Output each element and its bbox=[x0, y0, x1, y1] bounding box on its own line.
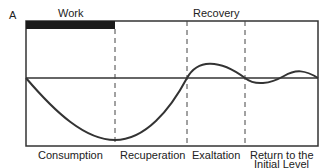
recovery-label: Recovery bbox=[193, 8, 239, 19]
phase-label-exaltation: Exaltation bbox=[192, 150, 240, 161]
supercompensation-diagram bbox=[0, 0, 334, 168]
phase-label-recuperation: Recuperation bbox=[120, 150, 185, 161]
phase-label-consumption: Consumption bbox=[38, 150, 103, 161]
phase-label-return-line2: Initial Level bbox=[254, 159, 309, 168]
diagram-frame bbox=[26, 21, 318, 146]
corner-label: A bbox=[9, 10, 16, 21]
performance-curve bbox=[26, 64, 318, 140]
work-bar bbox=[26, 21, 115, 29]
work-label: Work bbox=[58, 8, 83, 19]
